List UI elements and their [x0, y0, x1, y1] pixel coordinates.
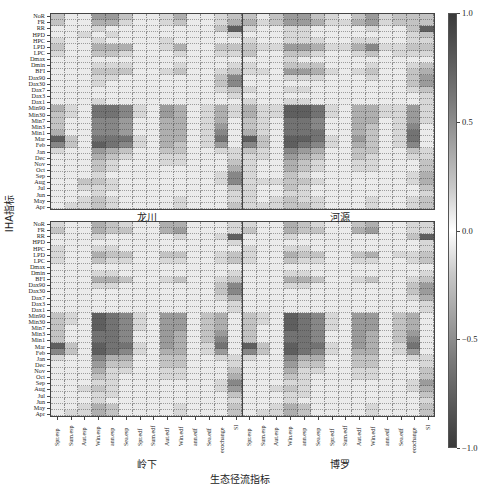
y-tick-mark — [47, 255, 50, 256]
y-tick-mark — [47, 176, 50, 177]
panel-heyuan — [242, 13, 435, 210]
y-tick-mark — [47, 182, 50, 183]
colorbar-tick-label: −0.5 — [462, 334, 477, 344]
y-tick-mark — [47, 298, 50, 299]
y-tick-mark — [47, 224, 50, 225]
y-tick-mark — [47, 115, 50, 116]
heatmap-cell — [201, 410, 215, 416]
y-tick-mark — [47, 347, 50, 348]
colorbar-tick-mark — [457, 339, 460, 340]
heatmap-cell — [215, 410, 229, 416]
x-tick-label: Sum.edf — [150, 426, 156, 446]
x-tick-mark — [195, 417, 196, 420]
heatmap-cell — [215, 203, 229, 209]
x-tick-label: Spr.edf — [329, 429, 335, 446]
heatmap-cell — [420, 203, 434, 209]
x-tick-mark — [84, 417, 85, 420]
heatmap-grid — [51, 14, 242, 209]
x-tick-mark — [359, 417, 360, 420]
y-tick-mark — [47, 139, 50, 140]
panel-title-boluo: 博罗 — [310, 456, 370, 471]
x-tick-label: Sum.esp — [260, 426, 266, 447]
panel-boluo — [242, 221, 435, 417]
heatmap-cell — [257, 410, 271, 416]
x-tick-label: ann.edf — [192, 428, 198, 446]
heatmap-cell — [228, 203, 242, 209]
heatmap-cell — [92, 410, 106, 416]
x-tick-mark — [140, 417, 141, 420]
heatmap-cell — [119, 410, 133, 416]
x-tick-label: Spr.esp — [54, 429, 60, 447]
y-tick-mark — [47, 96, 50, 97]
colorbar-tick-mark — [457, 13, 460, 14]
heatmap-cell — [379, 410, 393, 416]
panel-title-longchuan: 龙川 — [117, 209, 177, 224]
x-tick-label: Spr.esp — [246, 429, 252, 447]
x-tick-label: ann.esp — [109, 428, 115, 446]
heatmap-cell — [51, 203, 65, 209]
heatmap-cell — [407, 410, 421, 416]
colorbar-tick-mark — [457, 122, 460, 123]
y-tick-mark — [47, 59, 50, 60]
x-tick-label: Aut.edf — [164, 428, 170, 446]
x-tick-label: Aut.esp — [81, 428, 87, 447]
heatmap-cell — [379, 203, 393, 209]
y-tick-mark — [47, 195, 50, 196]
y-tick-mark — [47, 53, 50, 54]
x-tick-label: Win.edf — [178, 427, 184, 446]
y-tick-mark — [47, 328, 50, 329]
heatmap-cell — [187, 203, 201, 209]
heatmap-cell — [393, 410, 407, 416]
x-tick-mark — [387, 417, 388, 420]
y-tick-mark — [47, 145, 50, 146]
heatmap-cell — [78, 410, 92, 416]
y-tick-mark — [47, 102, 50, 103]
heatmap-cell — [92, 203, 106, 209]
y-tick-mark — [47, 127, 50, 128]
y-tick-mark — [47, 414, 50, 415]
x-tick-label: Sum.esp — [68, 426, 74, 447]
y-tick-mark — [47, 164, 50, 165]
y-tick-mark — [47, 133, 50, 134]
x-tick-mark — [263, 417, 264, 420]
x-tick-mark — [153, 417, 154, 420]
panel-title-lingxia: 岭下 — [117, 456, 177, 471]
y-tick-mark — [47, 371, 50, 372]
x-tick-mark — [222, 417, 223, 420]
heatmap-cell — [270, 203, 284, 209]
x-tick-mark — [181, 417, 182, 420]
x-tick-label: Win.esp — [95, 427, 101, 447]
y-tick-mark — [47, 396, 50, 397]
x-tick-label: ecochange — [219, 427, 225, 452]
x-tick-mark — [373, 417, 374, 420]
heatmap-cell — [228, 410, 242, 416]
x-tick-mark — [209, 417, 210, 420]
x-tick-mark — [428, 417, 429, 420]
colorbar-tick-mark — [457, 448, 460, 449]
x-tick-label: Sea.edf — [398, 428, 404, 446]
x-tick-mark — [112, 417, 113, 420]
x-tick-label: Aut.edf — [356, 428, 362, 446]
y-tick-mark — [47, 285, 50, 286]
y-tick-mark — [47, 71, 50, 72]
colorbar-tick-label: 0.5 — [462, 117, 473, 127]
x-axis-title: 生态径流指标 — [210, 471, 270, 486]
y-tick-mark — [47, 65, 50, 66]
y-tick-mark — [47, 41, 50, 42]
x-tick-label: SI — [425, 424, 431, 429]
y-tick-mark — [47, 359, 50, 360]
heatmap-cell — [106, 410, 120, 416]
y-tick-mark — [47, 28, 50, 29]
heatmap-cell — [65, 203, 79, 209]
y-tick-mark — [47, 322, 50, 323]
x-tick-mark — [167, 417, 168, 420]
y-tick-mark — [47, 304, 50, 305]
heatmap-grid — [51, 222, 242, 416]
heatmap-cell — [270, 410, 284, 416]
heatmap-grid — [243, 14, 434, 209]
y-tick-mark — [47, 353, 50, 354]
y-tick-label: Apr — [5, 204, 45, 210]
x-tick-mark — [318, 417, 319, 420]
heatmap-cell — [325, 410, 339, 416]
y-tick-label: Apr — [5, 411, 45, 417]
